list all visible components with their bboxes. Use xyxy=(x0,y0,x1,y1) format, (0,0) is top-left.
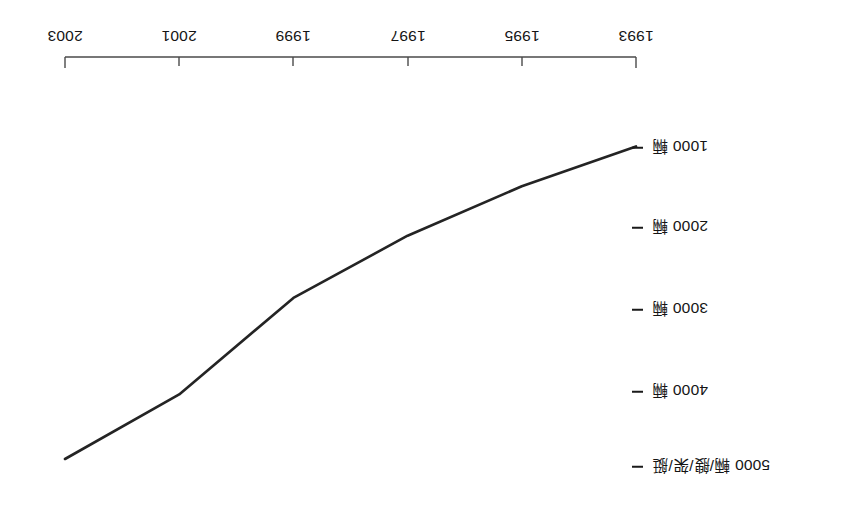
x-tick-label-2001: 2001 xyxy=(161,27,196,45)
y-tick-label-3000: 3000 輛 xyxy=(652,299,804,321)
x-tick-label-1993: 1993 xyxy=(618,27,653,45)
x-axis xyxy=(65,57,636,68)
y-tick-label-5000: 5000 輛/艘/架/艇 xyxy=(652,456,852,478)
y-tick-dash-2000 xyxy=(632,227,643,229)
x-tick-label-2003: 2003 xyxy=(47,27,82,45)
y-tick-dash-1000 xyxy=(632,147,643,149)
y-tick-dash-3000 xyxy=(632,309,643,311)
chart-canvas xyxy=(0,0,864,523)
x-tick-label-1995: 1995 xyxy=(504,27,539,45)
y-tick-label-2000: 2000 輛 xyxy=(652,217,804,239)
series-line xyxy=(65,146,636,459)
rotated-figure-container: 1993 1995 1997 1999 2001 2003 1000 輛 200… xyxy=(0,0,864,523)
y-tick-dash-4000 xyxy=(632,391,643,393)
y-tick-label-1000: 1000 輛 xyxy=(652,137,804,159)
y-tick-dash-5000 xyxy=(632,466,643,468)
chart-plot-area: 1993 1995 1997 1999 2001 2003 1000 輛 200… xyxy=(0,0,864,523)
y-tick-label-4000: 4000 輛 xyxy=(652,381,804,403)
x-tick-label-1997: 1997 xyxy=(390,27,425,45)
x-tick-label-1999: 1999 xyxy=(275,27,310,45)
